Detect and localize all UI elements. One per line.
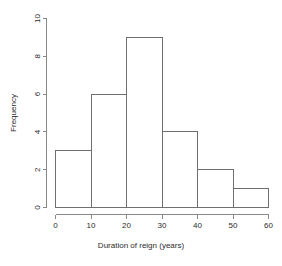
x-tick-label: 60 — [264, 221, 273, 230]
y-tick-label: 2 — [33, 167, 42, 172]
x-tick-label: 30 — [158, 221, 167, 230]
y-tick-label: 10 — [33, 14, 42, 23]
y-tick-label: 6 — [33, 91, 42, 96]
x-tick-label: 50 — [229, 221, 238, 230]
y-axis-title: Frequency — [9, 94, 18, 132]
y-tick-label: 0 — [33, 205, 42, 210]
x-tick-label: 0 — [53, 221, 58, 230]
x-tick-label: 10 — [87, 221, 96, 230]
histogram-plot: 0246810 0102030405060 Duration of reign … — [0, 0, 282, 266]
x-tick-label: 20 — [122, 221, 131, 230]
x-tick-label: 40 — [193, 221, 202, 230]
plot-background — [0, 0, 282, 266]
y-tick-label: 4 — [33, 129, 42, 134]
histogram-figure: 0246810 0102030405060 Duration of reign … — [0, 0, 282, 266]
y-tick-label: 8 — [33, 54, 42, 59]
x-axis-title: Duration of reign (years) — [98, 241, 185, 250]
